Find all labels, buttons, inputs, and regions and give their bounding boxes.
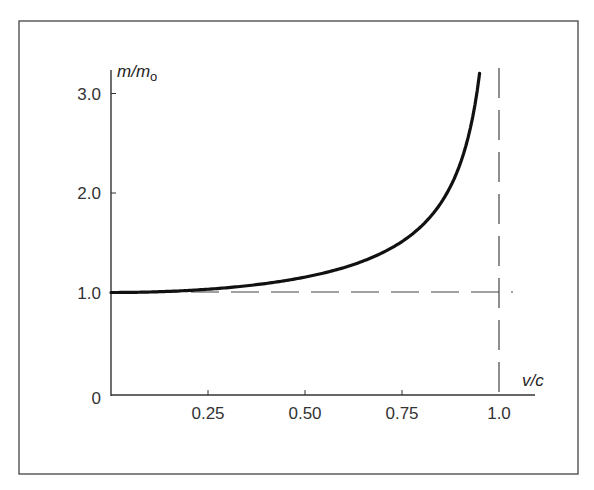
relativistic-mass-chart: 0.250.500.751.0 01.02.03.0 m/mo v/c (0, 0, 594, 490)
x-tick-label: 0.50 (288, 404, 321, 423)
x-tick-label: 1.0 (487, 404, 511, 423)
x-tick-label: 0.75 (385, 404, 418, 423)
y-tick-label: 0 (92, 389, 101, 408)
y-ticks: 01.02.03.0 (77, 85, 116, 409)
y-tick-label: 1.0 (77, 284, 101, 303)
x-tick-label: 0.25 (191, 404, 224, 423)
y-tick-label: 3.0 (77, 85, 101, 104)
mass-curve (111, 73, 480, 292)
y-tick-label: 2.0 (77, 184, 101, 203)
y-axis-label: m/mo (117, 62, 157, 84)
x-axis-label: v/c (522, 371, 544, 390)
